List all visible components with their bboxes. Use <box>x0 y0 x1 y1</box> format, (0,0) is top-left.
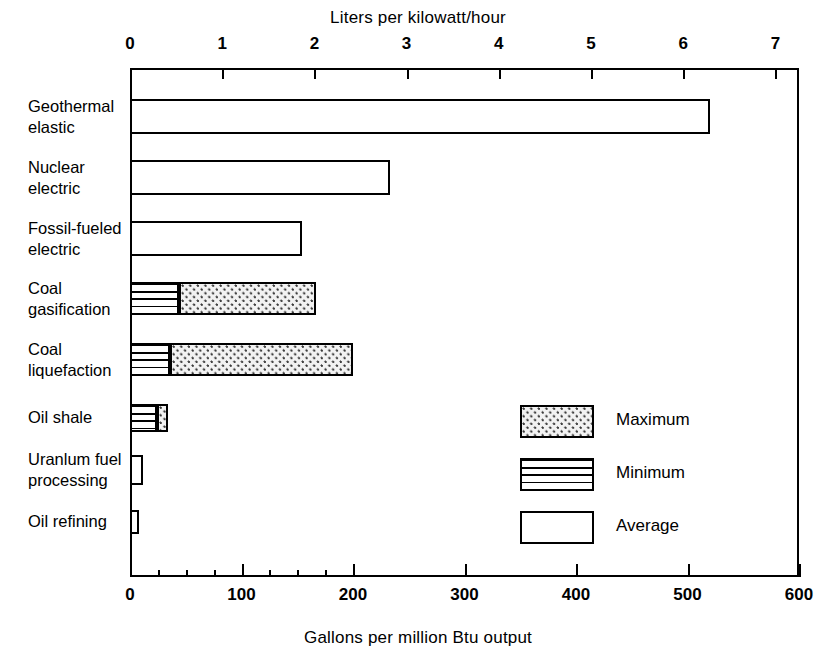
bottom-tick-mark <box>353 564 355 577</box>
bar-segment-minimum <box>130 343 170 376</box>
bottom-tick-label: 400 <box>541 585 611 605</box>
bar-segment-minimum <box>130 404 157 432</box>
bottom-tick-label: 300 <box>430 585 500 605</box>
top-tick-label: 1 <box>192 34 252 54</box>
category-label: Coalgasification <box>28 278 140 320</box>
category-label-line: Fossil-fueled <box>28 218 140 239</box>
chart-canvas: Liters per kilowatt/hour 01234567 010020… <box>0 0 836 666</box>
top-tick-mark <box>499 68 501 79</box>
bar-group <box>130 221 799 256</box>
bottom-minor-tick-mark <box>214 570 216 577</box>
category-label-line: gasification <box>28 299 140 320</box>
bar-segment-average <box>130 221 302 256</box>
category-label-line: elastic <box>28 117 140 138</box>
top-tick-mark <box>591 68 593 79</box>
bottom-minor-tick-mark <box>186 570 188 577</box>
bottom-minor-tick-mark <box>269 570 271 577</box>
bar-group <box>130 404 799 432</box>
top-tick-label: 3 <box>377 34 437 54</box>
bar-segment-maximum <box>170 343 353 376</box>
bottom-tick-label: 0 <box>95 585 165 605</box>
bar-segment-maximum <box>157 404 168 432</box>
top-tick-mark <box>683 68 685 79</box>
legend-label-average: Average <box>616 516 679 536</box>
top-tick-mark <box>775 68 777 79</box>
bar-group <box>130 343 799 376</box>
category-label-line: electric <box>28 178 140 199</box>
bar-segment-average <box>130 510 139 534</box>
top-tick-label: 5 <box>561 34 621 54</box>
bottom-tick-label: 600 <box>764 585 834 605</box>
bottom-tick-label: 100 <box>207 585 277 605</box>
bar-group <box>130 99 799 134</box>
bar-segment-average <box>130 455 143 485</box>
category-label: Fossil-fueledelectric <box>28 218 140 260</box>
legend-swatch-minimum <box>520 458 594 491</box>
bottom-tick-mark <box>688 564 690 577</box>
bar-group <box>130 510 799 534</box>
bottom-tick-mark <box>576 564 578 577</box>
bottom-minor-tick-mark <box>297 570 299 577</box>
bar-group <box>130 455 799 485</box>
top-tick-label: 6 <box>653 34 713 54</box>
bar-group <box>130 160 799 195</box>
legend-label-minimum: Minimum <box>616 463 685 483</box>
top-tick-mark <box>222 68 224 79</box>
bar-segment-average <box>130 160 390 195</box>
top-tick-label: 0 <box>100 34 160 54</box>
top-tick-label: 2 <box>284 34 344 54</box>
bottom-tick-mark <box>465 564 467 577</box>
legend-swatch-maximum <box>520 405 594 438</box>
bottom-tick-mark <box>242 564 244 577</box>
top-tick-mark <box>314 68 316 79</box>
category-label: Uranlum fuelprocessing <box>28 449 140 491</box>
category-label: Coalliquefaction <box>28 339 140 381</box>
bar-segment-average <box>130 99 710 134</box>
top-axis-title: Liters per kilowatt/hour <box>0 8 836 28</box>
category-label-line: Coal <box>28 339 140 360</box>
bar-segment-maximum <box>179 282 316 315</box>
category-label-line: processing <box>28 470 140 491</box>
category-label: Oil shale <box>28 407 140 428</box>
category-label-line: Nuclear <box>28 157 140 178</box>
top-tick-mark <box>130 68 132 79</box>
category-label: Oil refining <box>28 511 140 532</box>
bottom-axis-title: Gallons per million Btu output <box>0 628 836 648</box>
top-tick-mark <box>407 68 409 79</box>
category-label-line: Uranlum fuel <box>28 449 140 470</box>
bottom-minor-tick-mark <box>325 570 327 577</box>
bottom-tick-label: 200 <box>318 585 388 605</box>
bar-segment-minimum <box>130 282 179 315</box>
category-label-line: Coal <box>28 278 140 299</box>
bottom-tick-label: 500 <box>653 585 723 605</box>
category-label-line: electric <box>28 239 140 260</box>
bottom-tick-mark <box>130 564 132 577</box>
top-tick-label: 7 <box>745 34 805 54</box>
category-label-line: Oil refining <box>28 511 140 532</box>
bottom-minor-tick-mark <box>158 570 160 577</box>
category-label-line: Geothermal <box>28 96 140 117</box>
bar-group <box>130 282 799 315</box>
legend-label-maximum: Maximum <box>616 410 690 430</box>
category-label-line: Oil shale <box>28 407 140 428</box>
plot-area <box>130 68 799 577</box>
legend-swatch-average <box>520 511 594 544</box>
bottom-tick-mark <box>799 564 801 577</box>
category-label: Geothermalelastic <box>28 96 140 138</box>
category-label-line: liquefaction <box>28 360 140 381</box>
category-label: Nuclearelectric <box>28 157 140 199</box>
top-tick-label: 4 <box>469 34 529 54</box>
